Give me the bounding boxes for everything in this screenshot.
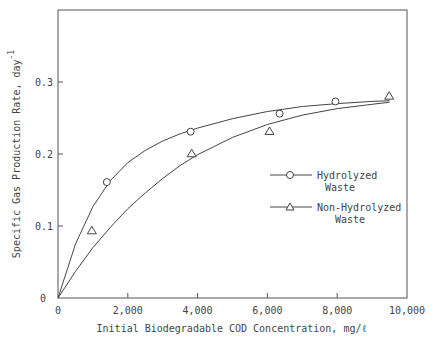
legend-item-non-hydrolyzed: Non-Hydrolyzed Waste [270,202,401,225]
x-tick-label: 0 [55,305,61,316]
y-axis-title-group: Specific Gas Production Rate, day-1 [7,50,22,259]
y-axis-ticks: 00.10.20.3 [35,77,63,304]
triangle-marker-icon [385,92,394,100]
fit-curve-hydrolyzed [58,101,390,298]
plot-frame [58,10,407,298]
x-axis-title: Initial Biodegradable COD Concentration,… [97,323,368,334]
circle-marker-icon [287,172,294,179]
y-tick-label: 0 [40,293,46,304]
y-tick-label: 0.2 [35,149,53,160]
circle-marker-icon [187,128,194,135]
legend-label-line1: Non-Hydrolyzed [317,202,401,213]
fit-curves [58,101,390,298]
legend-label-line2: Waste [325,182,355,193]
x-tick-label: 4,000 [183,305,213,316]
y-axis-title: Specific Gas Production Rate, day-1 [7,50,22,259]
x-tick-label: 6,000 [252,305,282,316]
circle-marker-icon [276,110,283,117]
legend-label-line2: Waste [335,214,365,225]
legend-item-hydrolyzed: Hydrolyzed Waste [270,170,377,193]
circle-marker-icon [332,98,339,105]
fit-curve-non-hydrolyzed [58,102,390,298]
chart: 02,0004,0006,0008,00010,000 00.10.20.3 I… [0,0,439,347]
legend-label-line1: Hydrolyzed [317,170,377,181]
x-axis-ticks: 02,0004,0006,0008,00010,000 [55,293,425,316]
y-tick-label: 0.3 [35,77,53,88]
legend: Hydrolyzed Waste Non-Hydrolyzed Waste [270,170,401,225]
x-tick-label: 8,000 [322,305,352,316]
x-tick-label: 10,000 [389,305,425,316]
triangle-marker-icon [187,149,196,157]
triangle-marker-icon [87,226,96,234]
triangle-marker-icon [265,127,274,135]
circle-marker-icon [103,179,110,186]
y-tick-label: 0.1 [35,221,53,232]
x-tick-label: 2,000 [113,305,143,316]
